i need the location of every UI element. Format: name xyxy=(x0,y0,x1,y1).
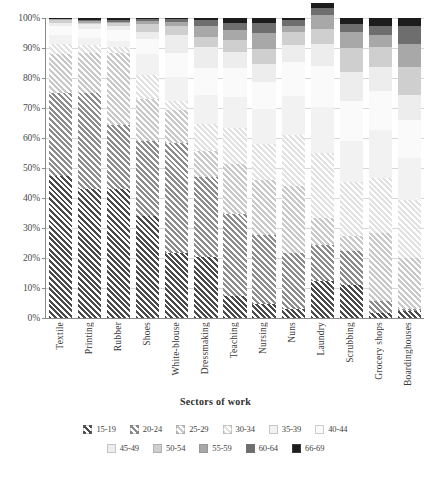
bar-segment-66-69 xyxy=(78,18,101,20)
bar-segment-55-59 xyxy=(340,32,363,49)
bar-laundry[interactable] xyxy=(311,18,334,318)
bar-shoes[interactable] xyxy=(136,18,159,318)
bar-boardinghouses[interactable] xyxy=(398,18,421,318)
legend-label: 20-24 xyxy=(143,424,162,434)
legend-label: 15-19 xyxy=(96,424,115,434)
bar-segment-25-29 xyxy=(282,186,305,253)
bar-segment-50-54 xyxy=(78,23,101,25)
x-tick-label: Printing xyxy=(84,322,94,354)
y-tick-label: 50% xyxy=(23,163,40,173)
bar-segment-50-54 xyxy=(252,49,275,64)
bar-segment-15-19 xyxy=(311,281,334,318)
bar-segment-55-59 xyxy=(78,21,101,22)
legend-item-20-24[interactable]: 20-24 xyxy=(130,424,162,434)
bar-segment-60-64 xyxy=(165,19,188,22)
bar-segment-50-54 xyxy=(398,67,421,95)
bar-segment-40-44 xyxy=(398,120,421,158)
bar-dressmaking[interactable] xyxy=(194,18,217,318)
bar-segment-60-64 xyxy=(252,23,275,34)
bar-segment-60-64 xyxy=(340,24,363,32)
bar-segment-15-19 xyxy=(252,304,275,318)
bar-segment-30-34 xyxy=(398,200,421,259)
legend-item-45-49[interactable]: 45-49 xyxy=(107,443,139,453)
bar-segment-40-44 xyxy=(252,82,275,109)
bar-segment-20-24 xyxy=(398,309,421,311)
bar-printing[interactable] xyxy=(78,18,101,318)
legend-label: 45-49 xyxy=(120,443,139,453)
bar-segment-50-54 xyxy=(311,29,334,44)
bar-segment-30-34 xyxy=(252,144,275,180)
x-tick-label: White-blouse xyxy=(171,322,181,376)
y-tick-label: 10% xyxy=(23,283,40,293)
bar-nuns[interactable] xyxy=(282,18,305,318)
legend-item-40-44[interactable]: 40-44 xyxy=(315,424,347,434)
bar-segment-35-39 xyxy=(165,77,188,101)
bar-segment-55-59 xyxy=(194,26,217,37)
bar-segment-45-49 xyxy=(78,24,101,29)
legend-item-66-69[interactable]: 66-69 xyxy=(292,443,324,453)
legend-item-55-59[interactable]: 55-59 xyxy=(199,443,231,453)
bar-scrubbing[interactable] xyxy=(340,18,363,318)
legend-item-60-64[interactable]: 60-64 xyxy=(246,443,278,453)
bar-segment-15-19 xyxy=(369,313,392,318)
stacked-bar-chart: 0%10%20%30%40%50%60%70%80%90%100% Textil… xyxy=(0,0,431,481)
x-tick-label: Grocery shops xyxy=(374,322,384,380)
bar-segment-15-19 xyxy=(165,253,188,318)
bar-segment-66-69 xyxy=(165,18,188,19)
bar-grocery-shops[interactable] xyxy=(369,18,392,318)
legend-swatch-icon xyxy=(292,444,301,453)
bar-segment-25-29 xyxy=(223,164,246,214)
bar-segment-20-24 xyxy=(369,301,392,313)
bar-segment-60-64 xyxy=(282,20,305,25)
bar-segment-50-54 xyxy=(194,37,217,48)
bar-textile[interactable] xyxy=(49,18,72,318)
bar-segment-60-64 xyxy=(398,26,421,44)
bar-segment-30-34 xyxy=(49,44,72,55)
bar-segment-30-34 xyxy=(107,47,130,53)
bar-segment-66-69 xyxy=(340,18,363,24)
bars-layer xyxy=(46,18,424,318)
y-tick-label: 40% xyxy=(23,193,40,203)
x-tick-label: Laundry xyxy=(316,322,326,356)
bar-segment-40-44 xyxy=(165,53,188,77)
legend-label: 55-59 xyxy=(212,443,231,453)
bar-segment-30-34 xyxy=(136,75,159,99)
bar-segment-25-29 xyxy=(136,99,159,141)
bar-segment-30-34 xyxy=(194,124,217,152)
legend-item-30-34[interactable]: 30-34 xyxy=(223,424,255,434)
bar-segment-25-29 xyxy=(194,151,217,177)
bar-rubber[interactable] xyxy=(107,18,130,318)
bar-segment-66-69 xyxy=(282,18,305,20)
bar-segment-35-39 xyxy=(136,54,159,75)
bar-nursing[interactable] xyxy=(252,18,275,318)
x-tick-label: Nuns xyxy=(287,322,297,343)
legend-swatch-icon xyxy=(130,425,139,434)
bar-segment-25-29 xyxy=(398,258,421,309)
bar-segment-35-39 xyxy=(398,158,421,200)
bar-segment-50-54 xyxy=(369,47,392,67)
bar-segment-45-49 xyxy=(165,35,188,53)
legend: 15-1920-2425-2930-3435-3940-44 45-4950-5… xyxy=(0,424,431,462)
bar-segment-25-29 xyxy=(78,53,101,94)
bar-segment-30-34 xyxy=(223,128,246,164)
bar-teaching[interactable] xyxy=(223,18,246,318)
bar-segment-45-49 xyxy=(398,95,421,121)
y-tick-label: 30% xyxy=(23,223,40,233)
bar-segment-45-49 xyxy=(107,26,130,31)
y-axis-labels: 0%10%20%30%40%50%60%70%80%90%100% xyxy=(0,0,44,330)
y-tick-label: 90% xyxy=(23,43,40,53)
legend-item-25-29[interactable]: 25-29 xyxy=(176,424,208,434)
legend-row-secondary: 45-4950-5455-5960-6466-69 xyxy=(0,443,431,453)
legend-item-35-39[interactable]: 35-39 xyxy=(269,424,301,434)
bar-segment-55-59 xyxy=(282,26,305,32)
bar-segment-25-29 xyxy=(311,218,334,245)
legend-item-15-19[interactable]: 15-19 xyxy=(83,424,115,434)
bar-segment-66-69 xyxy=(194,18,217,20)
legend-item-50-54[interactable]: 50-54 xyxy=(153,443,185,453)
bar-segment-45-49 xyxy=(252,64,275,82)
bar-segment-25-29 xyxy=(340,236,363,251)
legend-label: 60-64 xyxy=(259,443,278,453)
bar-segment-35-39 xyxy=(107,41,130,47)
bar-white-blouse[interactable] xyxy=(165,18,188,318)
bar-segment-40-44 xyxy=(194,68,217,96)
